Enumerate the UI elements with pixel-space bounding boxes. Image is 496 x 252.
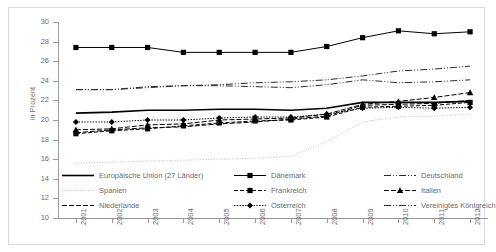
x-tick: [76, 218, 77, 223]
legend-item-9[interactable]: Vereinigtes Königreich: [383, 198, 496, 213]
y-tick-label: 12: [19, 193, 49, 202]
legend-line-swatch-icon: [383, 170, 417, 181]
x-tick: [112, 218, 113, 223]
y-tick-label: 10: [19, 213, 49, 222]
legend-line-swatch-icon: [383, 200, 417, 211]
legend-item-label: Frankreich: [267, 186, 306, 195]
legend-item-4[interactable]: Spanien: [61, 183, 127, 198]
x-tick: [398, 218, 399, 223]
y-tick-label: 22: [19, 95, 49, 104]
legend-item-label: Deutschland: [417, 171, 463, 180]
y-tick-label: 24: [19, 76, 49, 85]
legend-item-label: Dänemark: [267, 171, 306, 180]
legend-item-3[interactable]: Deutschland: [383, 168, 463, 183]
x-tick: [470, 218, 471, 223]
x-tick: [183, 218, 184, 223]
legend-item-5[interactable]: Frankreich: [233, 183, 306, 198]
legend-item-8[interactable]: Österreich: [233, 198, 306, 213]
y-tick-label: 28: [19, 37, 49, 46]
legend-line-swatch-icon: [61, 200, 95, 211]
legend-line-swatch-icon: [61, 185, 95, 196]
legend-item-label: Spanien: [95, 186, 127, 195]
y-tick-label: 18: [19, 135, 49, 144]
legend-item-label: Niederlande: [95, 201, 139, 210]
y-tick-label: 14: [19, 174, 49, 183]
legend-line-swatch-icon: [233, 200, 267, 211]
y-tick-label: 20: [19, 115, 49, 124]
legend-item-label: Italien: [417, 186, 441, 195]
y-tick-label: 26: [19, 56, 49, 65]
legend-row: SpanienFrankreichItalien: [61, 183, 481, 198]
legend-item-6[interactable]: Italien: [383, 183, 441, 198]
legend-line-swatch-icon: [383, 185, 417, 196]
legend-item-label: Österreich: [267, 201, 306, 210]
legend-row: NiederlandeÖsterreichVereinigtes Königre…: [61, 198, 481, 213]
y-tick-label: 16: [19, 154, 49, 163]
x-tick: [148, 218, 149, 223]
y-tick: [53, 218, 58, 219]
legend-row: Europäische Union (27 Länder)DänemarkDeu…: [61, 168, 481, 183]
legend-line-swatch-icon: [61, 170, 95, 181]
x-tick: [434, 218, 435, 223]
legend-item-label: Europäische Union (27 Länder): [95, 171, 203, 180]
chart-legend: Europäische Union (27 Länder)DänemarkDeu…: [61, 168, 481, 216]
legend-item-1[interactable]: Europäische Union (27 Länder): [61, 168, 203, 183]
x-tick: [327, 218, 328, 223]
x-tick: [219, 218, 220, 223]
x-tick: [363, 218, 364, 223]
legend-item-label: Vereinigtes Königreich: [417, 201, 496, 210]
x-tick: [291, 218, 292, 223]
legend-item-2[interactable]: Dänemark: [233, 168, 306, 183]
legend-item-7[interactable]: Niederlande: [61, 198, 139, 213]
x-tick: [255, 218, 256, 223]
legend-line-swatch-icon: [233, 170, 267, 181]
y-tick-label: 30: [19, 17, 49, 26]
legend-line-swatch-icon: [233, 185, 267, 196]
chart-frame: in Prozent 3028262422201816141210 200120…: [8, 7, 485, 245]
